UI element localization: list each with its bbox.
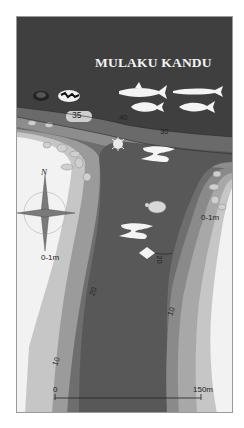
manta-ray-icon: [141, 146, 175, 162]
scale-start-label: 0: [53, 385, 57, 394]
tuna-icon: [131, 102, 164, 112]
contour-label-30: 30: [160, 127, 168, 136]
map-title: MULAKU KANDU: [95, 55, 212, 71]
shallow-label-left: 0-1m: [41, 253, 59, 262]
dive-site-map: N MULAKU KANDU 35 40 30 20 20 10 10 0-1m…: [16, 16, 233, 413]
depth-marker-35: 35: [72, 110, 81, 120]
shallow-label-right: 0-1m: [201, 213, 219, 222]
tuna-icon: [179, 101, 215, 113]
coral-icon: [58, 90, 80, 102]
manta-ray-icon: [119, 223, 153, 239]
lionfish-icon: [112, 137, 124, 151]
coral-icon: [33, 91, 49, 101]
contour-label-20-right: 20: [155, 255, 164, 263]
turtle-icon: [145, 201, 166, 213]
compass-north-label: N: [41, 167, 47, 177]
contour-label-40: 40: [119, 113, 127, 122]
shark-icon: [119, 82, 167, 99]
scale-end-label: 150m: [193, 385, 213, 394]
compass-rose-icon: [17, 167, 87, 257]
barracuda-icon: [173, 86, 223, 97]
